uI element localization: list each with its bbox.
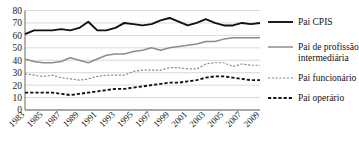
x-tick-label: 1991 bbox=[79, 109, 99, 129]
y-tick-label: 70 bbox=[13, 18, 23, 28]
line-chart: 01020304050607080 1983198519871989199119… bbox=[0, 0, 359, 145]
y-tick-label: 50 bbox=[13, 43, 23, 53]
y-tick-label: 80 bbox=[13, 6, 23, 16]
legend-label: Pai CPIS bbox=[298, 17, 333, 27]
x-tick-label: 2007 bbox=[224, 109, 244, 129]
x-tick-label: 1987 bbox=[43, 109, 63, 129]
x-tick-label: 2009 bbox=[242, 109, 262, 129]
legend-label: Pai funcionário bbox=[298, 73, 357, 83]
x-tick-label: 1985 bbox=[25, 109, 45, 129]
legend-label: Pai de profissão bbox=[298, 42, 359, 52]
series-line-2 bbox=[25, 63, 260, 80]
chart-canvas: 01020304050607080 1983198519871989199119… bbox=[0, 0, 359, 145]
x-tick-label: 1989 bbox=[61, 109, 81, 129]
y-tick-label: 60 bbox=[13, 31, 23, 41]
series-line-3 bbox=[25, 76, 260, 95]
x-tick-label: 1997 bbox=[133, 109, 153, 129]
y-tick-label: 30 bbox=[13, 68, 23, 78]
x-tick-label: 2003 bbox=[187, 109, 207, 129]
x-tick-label: 2001 bbox=[169, 109, 189, 129]
y-tick-label: 40 bbox=[13, 56, 23, 66]
series-line-1 bbox=[25, 38, 260, 63]
data-series-group bbox=[25, 18, 260, 95]
x-tick-label: 1999 bbox=[151, 109, 171, 129]
x-axis-tick-labels: 1983198519871989199119931995199719992001… bbox=[7, 109, 262, 129]
y-axis-tick-labels: 01020304050607080 bbox=[13, 6, 23, 116]
x-tick-label: 2005 bbox=[205, 109, 225, 129]
legend-label: intermediária bbox=[298, 53, 349, 63]
chart-legend: Pai CPISPai de profissãointermediáriaPai… bbox=[268, 17, 359, 103]
y-tick-label: 20 bbox=[13, 81, 23, 91]
y-tick-label: 10 bbox=[13, 93, 23, 103]
legend-label: Pai operário bbox=[298, 93, 344, 103]
x-tick-label: 1995 bbox=[115, 109, 135, 129]
series-line-0 bbox=[25, 18, 260, 34]
x-tick-label: 1993 bbox=[97, 109, 117, 129]
x-tick-label: 1983 bbox=[7, 109, 27, 129]
